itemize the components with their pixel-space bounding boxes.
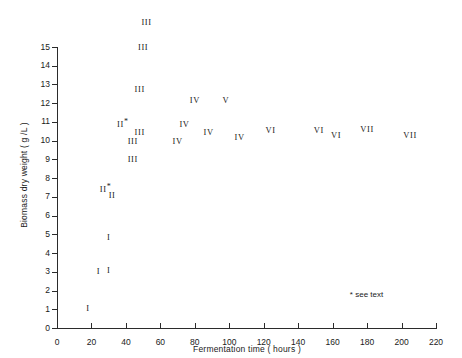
data-point-iii: III xyxy=(135,128,145,137)
x-axis-title: Fermentation time ( hours ) xyxy=(57,344,437,354)
y-tick-mark xyxy=(52,253,57,254)
data-point-i: I xyxy=(97,266,100,275)
asterisk-marker: * xyxy=(124,116,128,125)
x-tick-mark xyxy=(126,323,127,328)
y-tick-label: 1 xyxy=(18,305,50,314)
data-point-ii: II xyxy=(109,190,116,199)
y-tick-mark xyxy=(52,328,57,329)
y-tick-mark xyxy=(52,47,57,48)
data-point-iv: IV xyxy=(190,96,200,105)
data-point-vii: VII xyxy=(360,125,374,134)
y-axis-line xyxy=(57,47,58,328)
x-axis-line xyxy=(57,328,437,329)
y-tick-mark xyxy=(52,309,57,310)
y-tick-mark xyxy=(52,197,57,198)
data-point-iii: III xyxy=(128,136,138,145)
y-tick-mark xyxy=(52,216,57,217)
x-tick-mark xyxy=(57,323,58,328)
data-point-i: I xyxy=(86,304,89,313)
y-tick-label-text: 1 xyxy=(24,305,50,314)
x-tick-mark xyxy=(298,323,299,328)
x-tick-mark xyxy=(264,323,265,328)
data-point-i: I xyxy=(107,233,110,242)
data-point-iv: IV xyxy=(172,136,182,145)
x-tick-mark xyxy=(436,323,437,328)
y-tick-mark xyxy=(52,234,57,235)
y-tick-mark xyxy=(52,66,57,67)
y-tick-mark xyxy=(52,178,57,179)
y-axis-title: Biomass dry weight ( g /L ) xyxy=(19,65,29,285)
data-point-iii: III xyxy=(141,17,151,26)
y-tick-mark xyxy=(52,159,57,160)
data-point-ii: II* xyxy=(117,116,128,129)
data-point-iii: III xyxy=(138,43,148,52)
see-text-annotation: * see text xyxy=(350,290,383,299)
data-point-iii: III xyxy=(135,85,145,94)
y-tick-label: 15 xyxy=(18,43,50,52)
data-point-vii: VII xyxy=(403,131,417,140)
y-tick-label: 2 xyxy=(18,286,50,295)
y-tick-mark xyxy=(52,122,57,123)
x-tick-mark xyxy=(333,323,334,328)
data-point-vi: VI xyxy=(331,131,341,140)
x-tick-mark xyxy=(195,323,196,328)
x-tick-mark xyxy=(402,323,403,328)
y-tick-mark xyxy=(52,84,57,85)
y-tick-mark xyxy=(52,291,57,292)
x-tick-mark xyxy=(367,323,368,328)
y-tick-mark xyxy=(52,103,57,104)
biomass-fermentation-scatter-chart: 0123456789101112131415 02040608010012014… xyxy=(0,0,462,358)
y-tick-mark xyxy=(52,141,57,142)
data-point-iv: IV xyxy=(204,128,214,137)
x-tick-mark xyxy=(160,323,161,328)
x-tick-mark xyxy=(91,323,92,328)
y-tick-label-text: 2 xyxy=(24,286,50,295)
data-point-vi: VI xyxy=(266,126,276,135)
y-tick-mark xyxy=(52,272,57,273)
data-point-v: V xyxy=(222,96,229,105)
data-point-iv: IV xyxy=(179,119,189,128)
data-point-iii: III xyxy=(128,155,138,164)
data-point-vi: VI xyxy=(314,126,324,135)
y-tick-label-text: 15 xyxy=(24,43,50,52)
x-tick-mark xyxy=(229,323,230,328)
data-point-i: I xyxy=(107,265,110,274)
data-point-iv: IV xyxy=(235,132,245,141)
